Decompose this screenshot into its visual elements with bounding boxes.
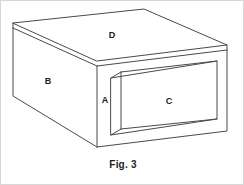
label-b: B bbox=[45, 76, 52, 86]
figure-caption: Fig. 3 bbox=[1, 159, 244, 170]
label-d: D bbox=[109, 30, 116, 40]
label-c: C bbox=[166, 96, 173, 106]
inset-panel-fill bbox=[121, 61, 217, 129]
figure-canvas: D B A C Fig. 3 bbox=[0, 0, 244, 185]
label-a: A bbox=[102, 95, 109, 105]
inset-left-bevel-fill bbox=[111, 72, 121, 135]
technical-drawing: D B A C bbox=[1, 1, 244, 185]
